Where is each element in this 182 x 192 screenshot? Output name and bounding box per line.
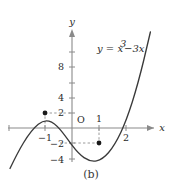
equation-annotation: y = x 3 −3x (96, 38, 145, 54)
x-tick-label-1: 1 (96, 113, 102, 124)
x-axis-arrowhead (147, 125, 154, 131)
y-tick-label--4: −4 (50, 154, 64, 165)
y-axis-label: y (68, 16, 75, 27)
x-axis-label: x (159, 122, 165, 133)
y-tick-label-2: 2 (58, 107, 64, 118)
point-local-minimum (97, 141, 102, 146)
x-axis (8, 125, 154, 131)
point-local-maximum (43, 111, 48, 116)
y-tick-label--2: −2 (50, 138, 64, 149)
y-tick-label-4: 4 (58, 92, 64, 103)
y-tick-label-8: 8 (58, 61, 64, 72)
y-axis-arrowhead (69, 29, 75, 37)
equation-rhs: −3x (124, 43, 145, 54)
figure-caption: (b) (0, 168, 182, 181)
cubic-function-graph: 8 4 2 −2 −4 −1 1 2 O x y y = x 3 −3x (0, 0, 182, 192)
figure-panel: 8 4 2 −2 −4 −1 1 2 O x y y = x 3 −3x (b) (0, 0, 182, 192)
origin-label: O (77, 114, 85, 125)
x-tick-label-2: 2 (123, 132, 129, 143)
x-tick-label--1: −1 (38, 132, 52, 143)
